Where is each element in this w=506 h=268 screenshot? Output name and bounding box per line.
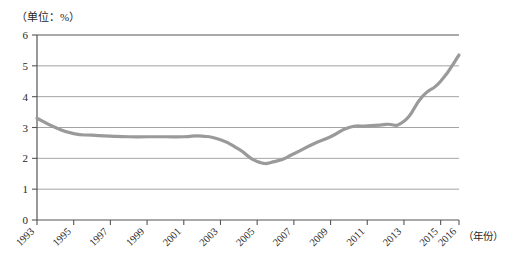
y-tick-label: 2 — [23, 152, 29, 164]
y-axis-ticks: 0123456 — [23, 29, 38, 226]
y-tick-label: 4 — [23, 91, 29, 103]
y-tick-label: 1 — [23, 183, 29, 195]
line-chart: （单位：%） （年份） 0123456 19931995199719992001… — [0, 0, 506, 268]
data-series-line — [37, 55, 459, 164]
plot-area: 0123456 19931995199719992001200320052007… — [0, 0, 506, 268]
x-tick-label: 2009 — [307, 226, 330, 249]
x-tick-label: 1993 — [14, 226, 37, 249]
x-tick-label: 2015 — [417, 226, 440, 249]
y-gridlines — [37, 35, 459, 189]
x-tick-label: 2011 — [344, 226, 366, 248]
x-tick-label: 2003 — [197, 226, 220, 249]
x-tick-label: 2005 — [234, 226, 257, 249]
y-tick-label: 5 — [23, 60, 29, 72]
x-axis-ticks: 1993199519971999200120032005200720092011… — [14, 220, 459, 248]
x-tick-label: 1999 — [124, 226, 147, 249]
y-tick-label: 0 — [23, 214, 29, 226]
x-tick-label: 2013 — [381, 226, 404, 249]
x-tick-label: 1995 — [50, 226, 73, 249]
x-tick-label: 2007 — [271, 226, 294, 249]
x-tick-label: 2001 — [161, 226, 184, 249]
x-tick-label: 1997 — [87, 226, 110, 249]
y-tick-label: 6 — [23, 29, 29, 41]
y-tick-label: 3 — [23, 122, 29, 134]
x-tick-label: 2016 — [436, 226, 459, 249]
